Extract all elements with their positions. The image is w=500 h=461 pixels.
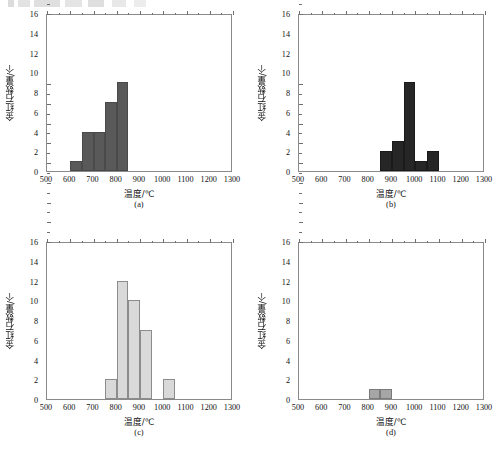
x-tick-label: 700	[86, 175, 98, 184]
y-tick-label: 14	[30, 29, 38, 38]
bar	[380, 389, 392, 399]
y-tick-major	[299, 183, 303, 184]
y-tick-minor	[299, 212, 302, 213]
x-tick-major	[210, 11, 211, 15]
panel-d-plot-area	[298, 242, 484, 400]
y-tick-minor	[299, 153, 302, 154]
panel-b: 金红石数量/个 0246810121416 500600700800900100…	[250, 0, 500, 228]
x-tick-minor	[357, 13, 358, 16]
panel-c-plot-area	[46, 242, 232, 400]
x-tick-minor	[473, 13, 474, 16]
panel-b-caption: (b)	[298, 200, 484, 209]
y-tick-major	[299, 203, 303, 204]
panel-b-x-tick-labels: 5006007008009001000110012001300	[298, 175, 484, 187]
y-tick-major	[299, 242, 303, 243]
y-tick-minor	[299, 114, 302, 115]
x-tick-major	[163, 11, 164, 15]
x-tick-minor	[82, 241, 83, 244]
panel-d-y-tick-labels: 0246810121416	[250, 242, 296, 400]
bar	[140, 330, 152, 399]
y-tick-label: 14	[282, 257, 290, 266]
y-tick-minor	[299, 173, 302, 174]
bar	[415, 161, 427, 171]
x-tick-label: 1100	[429, 175, 445, 184]
x-tick-minor	[357, 241, 358, 244]
x-tick-minor	[380, 241, 381, 244]
x-tick-label: 700	[338, 175, 350, 184]
y-tick-major	[299, 14, 303, 15]
bar	[105, 102, 117, 171]
x-tick-major	[94, 11, 95, 15]
panel-c-y-tick-labels: 0246810121416	[0, 242, 44, 400]
x-tick-major	[322, 239, 323, 243]
y-tick-label: 2	[34, 376, 38, 385]
panel-a-y-tick-labels: 0246810121416	[0, 14, 44, 172]
x-tick-label: 900	[385, 403, 397, 412]
y-tick-label: 14	[282, 29, 290, 38]
y-tick-label: 10	[282, 69, 290, 78]
panel-a-x-axis-title: 温度/℃	[46, 187, 232, 199]
bar	[82, 132, 94, 172]
x-tick-minor	[175, 241, 176, 244]
x-tick-minor	[473, 241, 474, 244]
x-tick-major	[163, 239, 164, 243]
x-tick-minor	[175, 13, 176, 16]
y-tick-major	[47, 203, 51, 204]
x-tick-major	[187, 239, 188, 243]
x-tick-minor	[82, 13, 83, 16]
x-tick-major	[233, 11, 234, 15]
y-tick-minor	[299, 193, 302, 194]
panel-b-bars	[299, 15, 483, 171]
x-tick-major	[415, 239, 416, 243]
y-tick-major	[47, 104, 51, 105]
x-tick-major	[439, 11, 440, 15]
x-tick-label: 800	[110, 175, 122, 184]
panel-b-plot-area	[298, 14, 484, 172]
y-tick-minor	[299, 94, 302, 95]
bar	[128, 300, 140, 399]
x-tick-label: 800	[362, 175, 374, 184]
y-tick-minor	[47, 4, 50, 5]
x-tick-label: 1200	[453, 175, 469, 184]
y-tick-label: 14	[30, 257, 38, 266]
y-tick-minor	[47, 94, 50, 95]
y-tick-label: 12	[282, 277, 290, 286]
x-tick-major	[233, 239, 234, 243]
y-tick-label: 8	[34, 317, 38, 326]
panel-d-x-tick-labels: 5006007008009001000110012001300	[298, 403, 484, 415]
x-tick-minor	[427, 13, 428, 16]
x-tick-label: 1000	[406, 403, 422, 412]
y-tick-minor	[299, 232, 302, 233]
x-tick-label: 1000	[154, 175, 170, 184]
x-tick-label: 1300	[224, 403, 240, 412]
x-tick-minor	[198, 241, 199, 244]
x-tick-minor	[380, 13, 381, 16]
x-tick-minor	[427, 241, 428, 244]
x-tick-label: 800	[362, 403, 374, 412]
x-tick-label: 900	[133, 403, 145, 412]
panel-c-x-axis-title: 温度/℃	[46, 415, 232, 427]
x-tick-label: 1300	[476, 403, 492, 412]
x-tick-minor	[221, 13, 222, 16]
panel-c: 金红石数量/个 0246810121416 500600700800900100…	[0, 228, 250, 461]
y-tick-label: 12	[30, 49, 38, 58]
y-tick-major	[299, 143, 303, 144]
x-tick-minor	[404, 13, 405, 16]
y-tick-minor	[47, 193, 50, 194]
panel-d: 金红石数量/个 0246810121416 500600700800900100…	[250, 228, 500, 461]
y-tick-major	[47, 163, 51, 164]
x-tick-minor	[152, 13, 153, 16]
y-tick-label: 2	[286, 148, 290, 157]
y-tick-major	[299, 163, 303, 164]
x-tick-label: 500	[40, 403, 52, 412]
bar	[404, 82, 416, 171]
x-tick-major	[117, 239, 118, 243]
y-tick-label: 16	[282, 10, 290, 19]
x-tick-label: 1000	[406, 175, 422, 184]
y-tick-label: 0	[34, 168, 38, 177]
x-tick-major	[94, 239, 95, 243]
x-tick-minor	[450, 241, 451, 244]
x-tick-label: 1000	[154, 403, 170, 412]
y-tick-major	[47, 14, 51, 15]
y-tick-label: 16	[282, 238, 290, 247]
